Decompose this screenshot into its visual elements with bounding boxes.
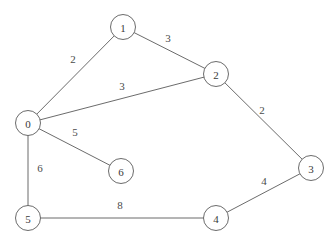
graph-node-1[interactable]: 1 bbox=[111, 15, 136, 40]
edge-weight-4-3: 4 bbox=[261, 175, 267, 187]
edge-weight-0-2: 3 bbox=[119, 80, 125, 92]
edge-weight-0-1: 2 bbox=[70, 53, 76, 65]
node-label-0: 0 bbox=[25, 118, 31, 130]
graph-node-3[interactable]: 3 bbox=[299, 156, 324, 181]
node-label-1: 1 bbox=[120, 22, 126, 34]
node-label-6: 6 bbox=[118, 166, 124, 178]
graph-node-0[interactable]: 0 bbox=[16, 111, 41, 136]
graph-node-6[interactable]: 6 bbox=[109, 159, 134, 184]
nodes-layer: 0123456 bbox=[16, 15, 324, 231]
edge-weight-0-5: 6 bbox=[37, 162, 43, 174]
node-label-3: 3 bbox=[308, 163, 314, 175]
edge-weight-5-4: 8 bbox=[117, 199, 123, 211]
graph-edge-0-1 bbox=[37, 36, 114, 114]
node-label-2: 2 bbox=[213, 69, 219, 81]
graph-node-5[interactable]: 5 bbox=[16, 206, 41, 231]
node-label-5: 5 bbox=[25, 213, 31, 225]
graph-node-4[interactable]: 4 bbox=[204, 206, 229, 231]
graph-canvas: 0123456 23325684 bbox=[0, 0, 335, 242]
graph-diagram: 0123456 23325684 bbox=[0, 0, 335, 242]
graph-edge-2-3 bbox=[225, 83, 302, 159]
node-label-4: 4 bbox=[213, 213, 219, 225]
edge-weight-1-2: 3 bbox=[165, 32, 171, 44]
edges-layer bbox=[28, 33, 302, 218]
edge-weight-0-6: 5 bbox=[72, 126, 78, 138]
edge-labels-layer: 23325684 bbox=[37, 32, 267, 211]
graph-node-2[interactable]: 2 bbox=[204, 62, 229, 87]
edge-weight-2-3: 2 bbox=[259, 104, 265, 116]
